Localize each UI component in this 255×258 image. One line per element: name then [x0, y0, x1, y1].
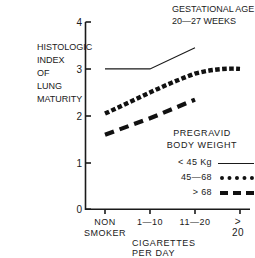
- x-tick-label-1-10-text: 1—10: [137, 217, 163, 227]
- legend-title-line-1: PREGRAVID: [150, 128, 254, 138]
- y-tick-label-1: 1: [76, 158, 82, 169]
- legend-item-under45kg-label: < 45 Kg: [178, 157, 212, 167]
- legend-title: PREGRAVID BODY WEIGHT: [150, 128, 254, 150]
- series-line-under45kg: [105, 48, 195, 69]
- legend-swatch-solid-icon: [218, 163, 254, 164]
- y-tick-label-3: 3: [76, 64, 82, 75]
- x-tick-label-non-smoker-line-2: SMOKER: [84, 228, 126, 238]
- series-line-45to68: [105, 69, 240, 114]
- legend: PREGRAVID BODY WEIGHT < 45 Kg 45—68 > 68: [150, 128, 254, 201]
- legend-item-45to68: 45—68: [150, 171, 254, 186]
- legend-item-over68: > 68: [150, 186, 254, 201]
- x-tick-label-11-20: 11—20: [180, 217, 211, 227]
- legend-item-under45kg: < 45 Kg: [150, 156, 254, 171]
- legend-swatch-dotted-icon: [220, 176, 254, 180]
- x-tick-label-non-smoker-line-1: NON: [94, 217, 116, 227]
- x-tick-label-11-20-text: 11—20: [180, 217, 211, 227]
- y-tick-label-2: 2: [76, 111, 82, 122]
- x-axis-title: CIGARETTES PER DAY: [132, 238, 214, 258]
- x-tick-label-non-smoker: NON SMOKER: [84, 217, 126, 238]
- x-tick-label-over-20-text: > 20: [232, 216, 244, 238]
- legend-item-over68-label: > 68: [193, 187, 212, 197]
- legend-title-line-2: BODY WEIGHT: [150, 140, 254, 150]
- x-tick-label-over-20: > 20: [230, 216, 247, 238]
- y-tick-label-0: 0: [76, 204, 82, 215]
- x-tick-label-1-10: 1—10: [137, 217, 163, 227]
- y-tick-label-4: 4: [76, 17, 82, 28]
- legend-swatch-dashed-icon: [220, 191, 254, 195]
- legend-item-45to68-label: 45—68: [181, 172, 212, 182]
